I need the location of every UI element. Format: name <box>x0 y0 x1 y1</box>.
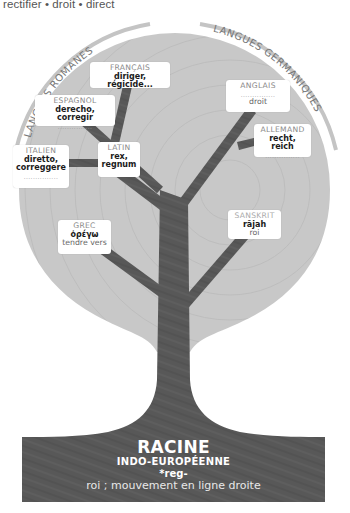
language-word: derecho, corregir <box>38 106 112 124</box>
blank-line: ............... <box>38 124 112 130</box>
root-form: *reg- <box>22 468 325 479</box>
language-word: recht, reich <box>257 135 308 153</box>
language-meaning: droit <box>229 98 287 107</box>
language-box-sanskrit: SANSKRIT rājah roi <box>228 210 281 239</box>
language-name: ANGLAIS <box>229 82 287 91</box>
language-word: diretto, correggere <box>16 156 66 174</box>
root-title: RACINE <box>22 438 325 456</box>
language-box-anglais: ANGLAIS ............... droit <box>226 80 290 112</box>
blank-line: ............... <box>16 174 66 180</box>
language-box-espagnol: ESPAGNOL derecho, corregir .............… <box>35 95 115 126</box>
root-subtitle: INDO-EUROPÉENNE <box>22 456 325 468</box>
language-box-allemand: ALLEMAND recht, reich ............... <box>254 124 311 157</box>
root-meaning: roi ; mouvement en ligne droite <box>22 479 325 492</box>
language-meaning: tendre vers <box>61 239 108 248</box>
language-meaning: roi <box>231 229 278 238</box>
language-word: rex, regnum <box>101 153 137 171</box>
blank-line: ............... <box>257 153 308 159</box>
language-box-grec: GREC ὀρέγω tendre vers <box>58 220 111 254</box>
root-label: RACINE INDO-EUROPÉENNE *reg- roi ; mouve… <box>22 438 325 492</box>
language-box-italien: ITALIEN diretto, correggere ............… <box>13 145 69 188</box>
language-box-latin: LATIN rex, regnum <box>98 142 140 177</box>
language-word: diriger, régicide... <box>93 73 167 91</box>
language-box-francais: FRANÇAIS diriger, régicide... <box>90 62 170 88</box>
